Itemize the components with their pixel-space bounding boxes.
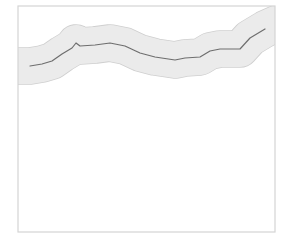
map-canvas[interactable] xyxy=(0,0,287,242)
map-view[interactable] xyxy=(0,0,287,242)
